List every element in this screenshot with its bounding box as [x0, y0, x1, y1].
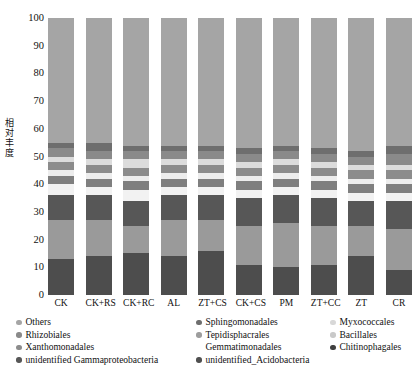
legend-item[interactable]: Gemmatimonadales [196, 341, 336, 354]
bar-segment[interactable] [273, 187, 299, 195]
bar-segment[interactable] [161, 179, 187, 187]
bar-segment[interactable] [198, 179, 224, 187]
bar-segment[interactable] [48, 220, 74, 259]
bar-segment[interactable] [161, 187, 187, 195]
legend-item[interactable]: Sphingomonadales [196, 316, 336, 329]
bar-segment[interactable] [386, 270, 412, 295]
bar-segment[interactable] [348, 184, 374, 192]
bar-segment[interactable] [123, 159, 149, 167]
bar-segment[interactable] [198, 165, 224, 173]
bar-segment[interactable] [198, 251, 224, 295]
bar-segment[interactable] [86, 187, 112, 195]
bar-column[interactable] [348, 18, 374, 295]
bar-segment[interactable] [386, 146, 412, 154]
bar-segment[interactable] [348, 157, 374, 165]
bar-segment[interactable] [86, 151, 112, 159]
legend-item[interactable]: Rhizobiales [16, 329, 206, 342]
bar-segment[interactable] [311, 154, 337, 162]
bar-segment[interactable] [48, 148, 74, 156]
bar-column[interactable] [273, 18, 299, 295]
bar-column[interactable] [198, 18, 224, 295]
bar-segment[interactable] [123, 226, 149, 254]
bar-segment[interactable] [123, 201, 149, 226]
bar-segment[interactable] [386, 193, 412, 201]
bar-segment[interactable] [348, 226, 374, 256]
legend-item[interactable]: Xanthomonadales [16, 341, 206, 354]
bar-column[interactable] [123, 18, 149, 295]
legend-item[interactable]: unidentified_Acidobacteria [196, 354, 336, 367]
bar-segment[interactable] [48, 176, 74, 184]
bar-segment[interactable] [198, 187, 224, 195]
bar-segment[interactable] [123, 18, 149, 145]
bar-column[interactable] [161, 18, 187, 295]
bar-segment[interactable] [311, 226, 337, 265]
bar-segment[interactable] [48, 195, 74, 220]
bar-segment[interactable] [161, 256, 187, 295]
bar-segment[interactable] [48, 18, 74, 143]
bar-column[interactable] [236, 18, 262, 295]
bar-segment[interactable] [48, 259, 74, 295]
legend-item[interactable]: unidentified Gammaproteobacteria [16, 354, 206, 367]
bar-segment[interactable] [236, 226, 262, 265]
bar-segment[interactable] [273, 223, 299, 267]
bar-column[interactable] [386, 18, 412, 295]
bar-segment[interactable] [123, 151, 149, 159]
legend-item[interactable]: Others [16, 316, 206, 329]
bar-segment[interactable] [236, 181, 262, 189]
bar-segment[interactable] [123, 168, 149, 176]
bar-segment[interactable] [161, 165, 187, 173]
bar-segment[interactable] [348, 201, 374, 226]
bar-segment[interactable] [348, 18, 374, 151]
bar-segment[interactable] [86, 256, 112, 295]
bar-segment[interactable] [161, 195, 187, 220]
bar-segment[interactable] [86, 220, 112, 256]
bar-segment[interactable] [236, 190, 262, 198]
bar-segment[interactable] [348, 170, 374, 178]
bar-segment[interactable] [236, 18, 262, 148]
bar-segment[interactable] [386, 18, 412, 145]
legend-item[interactable]: Tepidisphacrales [196, 329, 336, 342]
bar-segment[interactable] [161, 18, 187, 145]
bar-segment[interactable] [236, 154, 262, 162]
bar-segment[interactable] [311, 190, 337, 198]
bar-segment[interactable] [273, 267, 299, 295]
bar-segment[interactable] [161, 220, 187, 256]
bar-segment[interactable] [386, 229, 412, 271]
bar-segment[interactable] [86, 195, 112, 220]
bar-segment[interactable] [48, 162, 74, 170]
bar-segment[interactable] [48, 184, 74, 195]
bar-segment[interactable] [273, 195, 299, 223]
bar-segment[interactable] [198, 195, 224, 220]
bar-segment[interactable] [161, 151, 187, 159]
legend-item[interactable]: Chitinophagales [330, 341, 420, 354]
bar-column[interactable] [48, 18, 74, 295]
bar-segment[interactable] [311, 168, 337, 176]
bar-segment[interactable] [311, 198, 337, 226]
bar-segment[interactable] [386, 170, 412, 178]
bar-segment[interactable] [273, 165, 299, 173]
bar-segment[interactable] [348, 256, 374, 295]
bar-segment[interactable] [86, 165, 112, 173]
bar-segment[interactable] [273, 151, 299, 159]
bar-segment[interactable] [123, 190, 149, 201]
bar-segment[interactable] [311, 181, 337, 189]
bar-segment[interactable] [386, 201, 412, 229]
legend-item[interactable]: Bacillales [330, 329, 420, 342]
bar-segment[interactable] [86, 18, 112, 143]
bar-segment[interactable] [86, 179, 112, 187]
bar-segment[interactable] [123, 253, 149, 295]
bar-segment[interactable] [236, 198, 262, 226]
bar-segment[interactable] [273, 179, 299, 187]
bar-segment[interactable] [311, 18, 337, 148]
bar-segment[interactable] [198, 220, 224, 250]
bar-segment[interactable] [123, 181, 149, 189]
bar-segment[interactable] [198, 18, 224, 145]
bar-segment[interactable] [86, 143, 112, 151]
bar-segment[interactable] [386, 184, 412, 192]
bar-segment[interactable] [198, 151, 224, 159]
bar-segment[interactable] [236, 265, 262, 295]
bar-segment[interactable] [311, 265, 337, 295]
bar-segment[interactable] [348, 193, 374, 201]
bar-segment[interactable] [386, 154, 412, 165]
bar-segment[interactable] [236, 168, 262, 176]
